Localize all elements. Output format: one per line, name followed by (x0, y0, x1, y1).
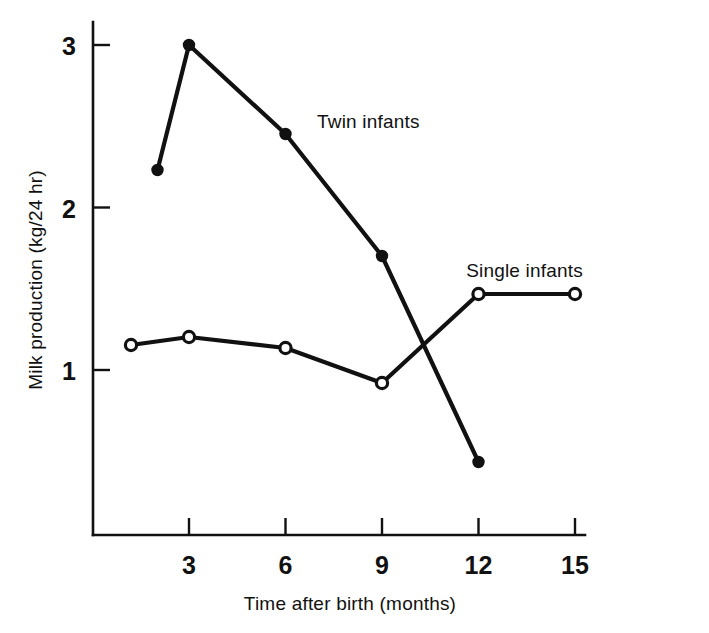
data-point-twin-12mo (473, 457, 483, 467)
x-tick-label-12: 12 (465, 551, 493, 579)
data-point-single-6mo (280, 342, 291, 353)
data-point-single-3mo (183, 331, 194, 342)
data-point-twin-3mo (184, 40, 194, 50)
y-axis-title: Milk production (kg/24 hr) (25, 170, 46, 390)
series-twin-infants-line (158, 45, 479, 462)
y-axis-ticks (93, 45, 110, 370)
y-tick-label-1: 1 (62, 357, 76, 385)
series-twin-infants (152, 40, 483, 467)
data-point-twin-2mo (152, 165, 162, 175)
y-tick-label-3: 3 (62, 32, 76, 60)
series-label-single-infants: Single infants (466, 260, 583, 281)
series-single-infants (125, 288, 580, 388)
data-point-single-9mo (376, 377, 387, 388)
data-point-single-15mo (569, 288, 580, 299)
series-single-infants-line (131, 294, 575, 383)
x-tick-label-3: 3 (182, 551, 196, 579)
x-axis-ticks (189, 518, 575, 535)
series-label-twin-infants: Twin infants (317, 111, 420, 132)
x-tick-label-9: 9 (375, 551, 389, 579)
data-point-twin-6mo (280, 129, 290, 139)
x-tick-label-6: 6 (279, 551, 293, 579)
y-tick-label-2: 2 (62, 195, 76, 223)
line-chart: 3 2 1 3 6 9 12 15 Time after birth (mont… (0, 0, 709, 633)
chart-figure: 3 2 1 3 6 9 12 15 Time after birth (mont… (0, 0, 709, 633)
data-point-single-1mo (125, 339, 136, 350)
data-point-single-12mo (473, 288, 484, 299)
x-tick-label-15: 15 (561, 551, 589, 579)
x-axis-title: Time after birth (months) (244, 593, 456, 614)
data-point-twin-9mo (377, 251, 387, 261)
